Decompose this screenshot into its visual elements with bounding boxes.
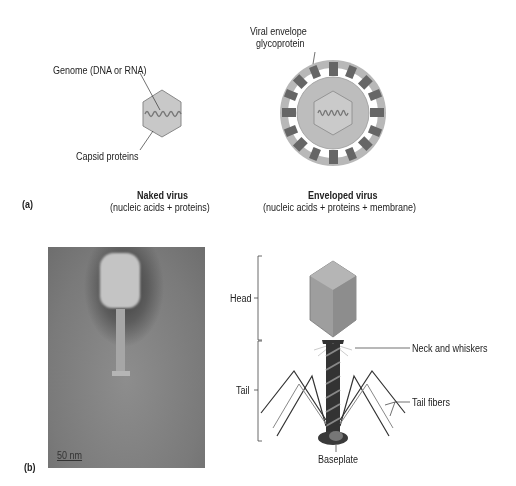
phage-baseplate-image xyxy=(112,371,130,376)
tail-fibers-label: Tail fibers xyxy=(412,397,450,408)
phage-tail-image xyxy=(116,309,125,371)
tail-label: Tail xyxy=(236,385,250,396)
naked-virus-title: Naked virus xyxy=(137,190,188,201)
genome-label: Genome (DNA or RNA) xyxy=(53,65,147,76)
phage-head-image xyxy=(100,253,140,308)
viral-envelope-label: Viral envelope xyxy=(250,26,307,37)
enveloped-virus-icon xyxy=(280,52,386,166)
baseplate-label: Baseplate xyxy=(318,454,358,465)
electron-micrograph: 50 nm xyxy=(48,247,205,468)
head-label: Head xyxy=(230,293,252,304)
enveloped-virus-subtitle: (nucleic acids + proteins + membrane) xyxy=(263,202,416,213)
enveloped-virus-title: Enveloped virus xyxy=(308,190,378,201)
bacteriophage-diagram-icon xyxy=(254,256,410,452)
capsid-proteins-label: Capsid proteins xyxy=(76,151,139,162)
panel-a-label: (a) xyxy=(22,199,33,210)
panel-b-label: (b) xyxy=(24,462,36,473)
glycoprotein-label: glycoprotein xyxy=(256,38,305,49)
naked-virus-subtitle: (nucleic acids + proteins) xyxy=(110,202,210,213)
neck-whiskers-label: Neck and whiskers xyxy=(412,343,488,354)
scale-bar: 50 nm xyxy=(57,450,82,461)
naked-virus-icon xyxy=(140,73,181,150)
